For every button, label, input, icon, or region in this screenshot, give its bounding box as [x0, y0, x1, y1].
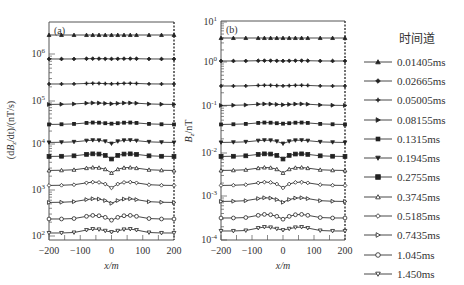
y-tick-label: 101: [204, 15, 218, 27]
y-tick-label: 100: [204, 55, 218, 67]
legend-item: 0.08155ms: [362, 110, 464, 129]
x-tick-label: −100: [242, 245, 263, 256]
legend-marker-icon: [362, 115, 394, 125]
legend-item: 0.2755ms: [362, 168, 464, 187]
legend-label: 0.7435ms: [397, 229, 440, 241]
legend-item: 0.5185ms: [362, 206, 464, 225]
legend-item: 1.045ms: [362, 245, 464, 264]
legend-label: 1.450ms: [397, 268, 435, 280]
legend-marker-icon: [362, 250, 394, 260]
series-markers: [47, 121, 176, 127]
legend-label: 0.3745ms: [397, 191, 440, 203]
series-markers: [47, 228, 176, 235]
legend-label: 0.2755ms: [397, 171, 440, 183]
y-tick-label: 103: [32, 183, 46, 195]
legend-item: 0.1945ms: [362, 148, 464, 167]
x-axis-label: x/m: [103, 260, 118, 271]
x-tick-label: 0: [109, 245, 114, 256]
panel-label: (b): [226, 24, 238, 36]
legend-item: 0.3745ms: [362, 187, 464, 206]
series-markers: [47, 214, 176, 223]
legend-label: 1.045ms: [397, 249, 435, 261]
y-tick-label: 104: [32, 137, 46, 149]
y-tick-label: 105: [32, 94, 46, 106]
legend-marker-icon: [362, 57, 394, 67]
y-tick-label: 102: [32, 229, 46, 241]
legend-label: 0.01405ms: [397, 56, 446, 68]
series-markers: [219, 121, 347, 127]
legend-marker-icon: [362, 134, 394, 144]
x-tick-label: −100: [70, 245, 91, 256]
x-tick-label: 0: [281, 245, 286, 256]
legend-item: 0.05005ms: [362, 91, 464, 110]
x-tick-label: −200: [39, 245, 60, 256]
legend-label: 0.1315ms: [397, 133, 440, 145]
legend-marker-icon: [362, 192, 394, 202]
legend-item: 0.01405ms: [362, 52, 464, 71]
legend-marker-icon: [362, 95, 394, 105]
series-markers: [219, 196, 346, 204]
legend-marker-icon: [362, 269, 394, 279]
legend-title: 时间道: [370, 30, 464, 52]
legend-marker-icon: [362, 230, 394, 240]
x-tick-label: 100: [307, 245, 322, 256]
series-markers: [47, 197, 175, 205]
legend-marker-icon: [362, 211, 394, 221]
legend-label: 0.05005ms: [397, 94, 446, 106]
y-tick-label: 106: [32, 47, 46, 59]
legend-marker-icon: [362, 172, 394, 182]
legend-item: 0.02665ms: [362, 71, 464, 90]
legend-label: 0.1945ms: [397, 152, 440, 164]
series-markers: [219, 226, 347, 233]
legend-marker-icon: [362, 76, 394, 86]
legend-label: 0.08155ms: [397, 114, 446, 126]
series-markers: [219, 213, 347, 222]
x-tick-label: −200: [211, 245, 232, 256]
legend-label: 0.5185ms: [397, 210, 440, 222]
y-tick-label: 10-2: [201, 146, 217, 158]
x-tick-label: 100: [135, 245, 150, 256]
legend-marker-icon: [362, 153, 394, 163]
y-tick-label: 10-3: [201, 189, 217, 201]
legend-item: 0.7435ms: [362, 226, 464, 245]
y-tick-label: 10-4: [201, 233, 217, 245]
x-axis-label: x/m: [275, 260, 290, 271]
x-tick-label: 200: [338, 245, 353, 256]
legend-label: 0.02665ms: [397, 75, 446, 87]
legend-item: 1.450ms: [362, 264, 464, 283]
legend-item: 0.1315ms: [362, 129, 464, 148]
y-axis-label-b: Bz/nT: [183, 120, 196, 143]
plot-panel-a: −200−1000100200x/m106105104103102(a): [32, 22, 182, 271]
x-tick-label: 200: [167, 245, 182, 256]
plot-panel-b: −200−1000100200x/m10110010-110-210-310-4…: [201, 15, 352, 271]
y-axis-label-a: (dBz/dt)/(nT/s): [5, 101, 18, 159]
y-tick-label: 10-1: [201, 99, 217, 111]
legend: 时间道 0.01405ms0.02665ms0.05005ms0.08155ms…: [362, 30, 464, 284]
